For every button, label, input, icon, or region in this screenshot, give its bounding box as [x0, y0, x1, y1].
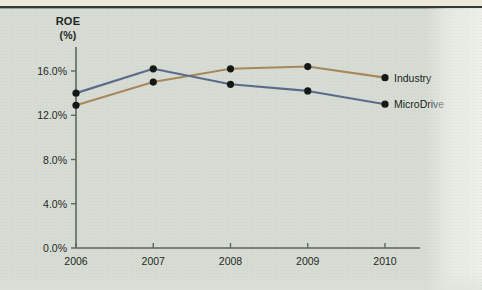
x-axis-tick-label: 2008	[219, 255, 243, 267]
roe-line-chart-figure: ROE (%) 0.0%4.0%8.0%12.0%16.0% 200620072…	[0, 0, 482, 290]
y-axis-tick-label: 16.0%	[37, 65, 67, 77]
data-point-marker	[72, 102, 79, 109]
data-point-marker	[304, 87, 311, 94]
y-axis-tick-label: 8.0%	[43, 154, 67, 166]
data-point-marker	[72, 90, 79, 97]
data-point-marker	[227, 65, 234, 72]
data-point-marker	[150, 78, 157, 85]
data-point-marker	[381, 101, 388, 108]
x-axis-tick-label: 2006	[64, 255, 88, 267]
data-point-marker	[150, 65, 157, 72]
data-point-marker	[381, 74, 388, 81]
y-axis: 0.0%4.0%8.0%12.0%16.0%	[37, 47, 76, 254]
data-point-marker	[304, 63, 311, 70]
x-axis: 20062007200820092010	[64, 243, 420, 267]
x-axis-tick-label: 2010	[373, 255, 397, 267]
y-axis-tick-label: 12.0%	[37, 109, 67, 121]
page-right-edge	[426, 8, 482, 290]
page-bottom-fade	[0, 272, 482, 290]
plot-area: 0.0%4.0%8.0%12.0%16.0% 20062007200820092…	[0, 0, 482, 290]
data-point-marker	[227, 81, 234, 88]
y-axis-tick-label: 0.0%	[43, 242, 67, 254]
x-axis-tick-label: 2009	[296, 255, 320, 267]
y-axis-tick-label: 4.0%	[43, 198, 67, 210]
data-series-group	[72, 63, 388, 109]
x-axis-tick-label: 2007	[142, 255, 166, 267]
